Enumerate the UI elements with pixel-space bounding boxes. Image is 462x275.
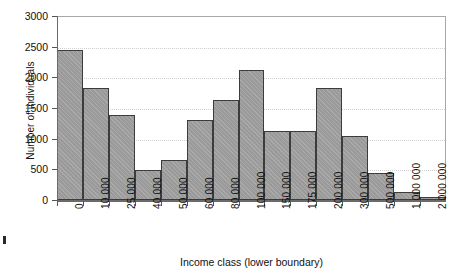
x-tick-label-12: 500 000 [385, 171, 396, 209]
x-tick-label-10: 200 000 [333, 171, 344, 209]
x-tick-label-14: 2 000 000 [437, 163, 448, 209]
y-tick-1000 [52, 139, 57, 140]
x-tick-label-4: 50 000 [178, 177, 189, 209]
y-tick-1500 [52, 108, 57, 109]
y-tick-label-2500: 2500 [8, 42, 48, 53]
x-tick-label-2: 25 000 [126, 177, 137, 209]
y-tick-2500 [52, 47, 57, 48]
y-tick-500 [52, 169, 57, 170]
y-tick-2000 [52, 77, 57, 78]
y-tick-label-2000: 2000 [8, 72, 48, 83]
x-tick-label-0: 0 [74, 203, 85, 209]
x-tick-label-8: 150 000 [281, 171, 292, 209]
histogram-chart: Number of individuals 0 [0, 0, 462, 275]
x-tick-label-1: 10 000 [100, 177, 111, 209]
y-tick-3000 [52, 16, 57, 17]
x-axis-title: Income class (lower boundary) [57, 256, 446, 268]
x-tick-label-6: 80 000 [230, 177, 241, 209]
y-axis: 0 500 1000 1500 2000 2500 3000 [0, 0, 462, 275]
x-tick-label-5: 60 000 [204, 177, 215, 209]
x-tick-label-13: 1 000 000 [411, 163, 422, 209]
x-tick-label-9: 175 000 [307, 171, 318, 209]
y-tick-label-1500: 1500 [8, 103, 48, 114]
scan-artifact [3, 236, 6, 244]
y-tick-label-1000: 1000 [8, 134, 48, 145]
x-tick-label-7: 100 000 [256, 171, 267, 209]
x-tick-0 [57, 201, 58, 206]
x-tick-label-11: 300 000 [359, 171, 370, 209]
x-tick-label-3: 40 000 [152, 177, 163, 209]
y-tick-label-500: 500 [8, 164, 48, 175]
y-tick-label-3000: 3000 [8, 11, 48, 22]
y-tick-label-0: 0 [8, 195, 48, 206]
